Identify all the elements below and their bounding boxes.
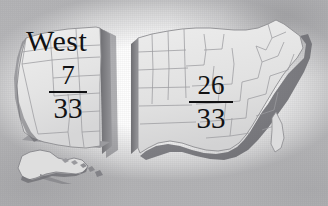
alaska-inset (18, 150, 88, 184)
hawaii-island-5 (95, 170, 103, 177)
east-fraction-denominator: 33 (182, 104, 240, 134)
east-region-fraction: 26 33 (182, 72, 240, 133)
west-fraction-denominator: 33 (42, 94, 94, 124)
west-region-side-wall (100, 28, 112, 154)
east-region-side-wall (131, 38, 138, 154)
west-fraction-numerator: 7 (42, 62, 94, 90)
hawaii-island-4 (88, 166, 95, 172)
west-region-fraction: 7 33 (42, 62, 94, 123)
florida-peninsula (271, 112, 284, 152)
west-region-title: West (26, 26, 87, 56)
east-fraction-numerator: 26 (182, 72, 240, 100)
map-figure: West 7 33 26 33 (0, 0, 328, 206)
